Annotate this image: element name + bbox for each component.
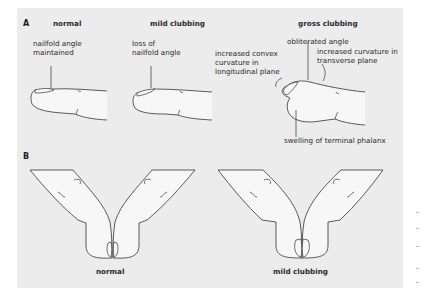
bleed-mark [416,212,419,213]
mild-clubbing-fingers-dorsal [218,170,383,258]
convex-curvature-line2: curvature in [215,58,259,67]
transverse-curvature-line1: increased curvature in [317,47,398,56]
swelling-label: swelling of terminal phalanx [284,136,386,145]
mild-annotation-line1: loss of [132,39,155,48]
convex-curvature-line3: longitudinal plane [215,67,280,76]
normal-fingers-dorsal [30,170,195,258]
obliterated-angle-label: obliterated angle [287,37,349,46]
mild-clubbing-caption: mild clubbing [273,267,328,276]
bleed-mark [416,282,419,283]
bleed-mark [416,246,419,247]
section-a-marker: A [23,19,29,28]
section-b-marker: B [23,152,29,161]
convex-curvature-line1: increased convex [215,49,278,58]
bleed-mark [416,268,419,269]
gross-clubbing-title: gross clubbing [298,19,358,28]
bleed-mark [416,228,419,229]
transverse-curvature-line2: transverse plane [317,56,378,65]
normal-title: normal [53,19,81,28]
mild-annotation-line2: nailfold angle [132,48,181,57]
normal-annotation-line1: nailfold angle [33,39,82,48]
normal-annotation-line2: maintained [33,48,74,57]
mild-clubbing-title: mild clubbing [150,19,205,28]
normal-finger-profile [31,66,107,120]
mild-clubbing-finger-profile [133,66,212,120]
normal-caption: normal [96,267,124,276]
